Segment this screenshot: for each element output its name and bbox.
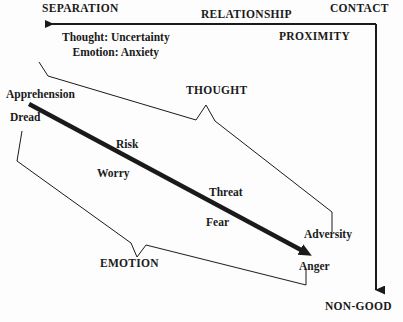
separation-note: Thought: Uncertainty Emotion: Anxiety [62,30,170,60]
intensity-scale-arrow [29,104,303,251]
bracket-label-emotion: EMOTION [100,257,159,269]
axis-label-separation: SEPARATION [42,2,119,14]
diagram-vector-layer [0,0,403,322]
axis-label-contact: CONTACT [330,2,389,14]
scale-label-worry: Worry [97,167,130,179]
diagram-canvas: SEPARATION RELATIONSHIP CONTACT PROXIMIT… [0,0,403,322]
scale-label-apprehension: Apprehension [6,88,75,100]
bracket-label-thought: THOUGHT [186,84,248,96]
scale-label-dread: Dread [10,111,40,123]
axis-label-proximity: PROXIMITY [279,30,350,42]
separation-note-thought-line: Thought: Uncertainty [62,30,170,45]
emotion-bracket [17,131,306,285]
scale-label-threat: Threat [209,186,243,198]
scale-label-anger: Anger [299,260,330,272]
scale-label-fear: Fear [206,216,229,228]
scale-label-risk: Risk [116,138,138,150]
separation-note-emotion-line: Emotion: Anxiety [62,45,170,60]
axis-label-non-good: NON-GOOD [325,300,392,312]
scale-label-adversity: Adversity [304,228,352,240]
axis-label-relationship: RELATIONSHIP [201,8,292,20]
